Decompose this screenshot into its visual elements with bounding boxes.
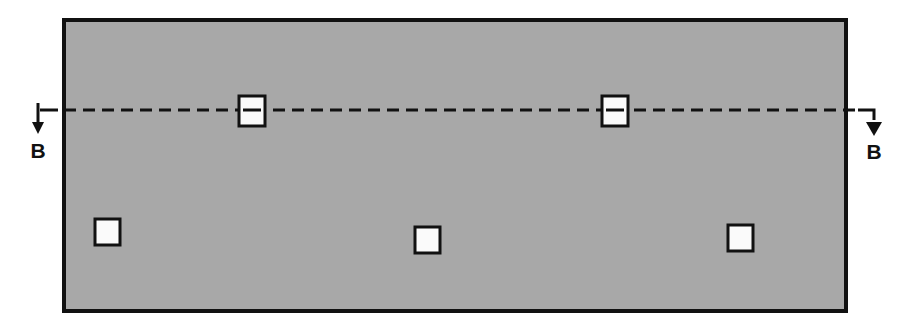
section-drawing: B B	[0, 0, 908, 327]
opening-bottom-2	[415, 227, 440, 253]
drawing-canvas: B B	[0, 0, 908, 327]
main-panel	[64, 20, 846, 311]
opening-bottom-1	[95, 219, 120, 245]
section-label-left: B	[30, 139, 45, 162]
opening-bottom-3	[728, 225, 753, 251]
section-label-right: B	[866, 140, 881, 163]
